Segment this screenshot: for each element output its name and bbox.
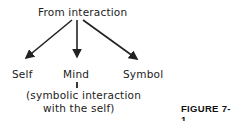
- arrow-to-symbol: [83, 20, 137, 59]
- mind-note-line1: (symbolic interaction: [26, 89, 141, 101]
- node-mind: Mind: [63, 68, 89, 80]
- node-self: Self: [12, 68, 33, 80]
- arrow-to-self: [26, 20, 72, 58]
- mind-note-line2: with the self): [43, 102, 115, 114]
- figure-caption: FIGURE 7-1: [181, 103, 231, 121]
- node-symbol: Symbol: [123, 68, 163, 80]
